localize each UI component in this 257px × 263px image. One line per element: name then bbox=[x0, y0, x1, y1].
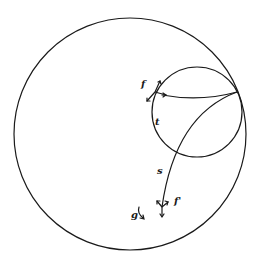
diagram-figure bbox=[0, 0, 257, 263]
label-g: g bbox=[131, 210, 138, 220]
label-t: t bbox=[155, 117, 160, 127]
diagram-canvas: f t s f' g bbox=[0, 0, 257, 263]
g-arrow bbox=[139, 207, 144, 218]
outer-circle bbox=[14, 18, 246, 250]
label-s: s bbox=[157, 166, 163, 176]
arc-s bbox=[162, 92, 237, 207]
label-f-prime: f' bbox=[174, 196, 181, 206]
inner-circle bbox=[152, 67, 242, 157]
f-arrows bbox=[147, 81, 166, 101]
label-f: f bbox=[141, 79, 145, 89]
